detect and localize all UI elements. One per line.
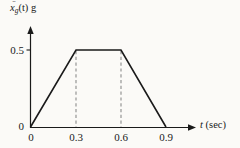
x-axis-variable: t xyxy=(200,119,203,130)
y-axis-title-rest: (t) g xyxy=(18,2,36,13)
y-axis-symbol: ¨xg xyxy=(10,3,18,15)
acceleration-pulse-figure: ¨xg(t) g t (sec) 0.5 0 0 0.3 0.6 0.9 xyxy=(0,0,240,148)
x-axis-unit: (sec) xyxy=(206,119,226,130)
x-axis-arrow-icon xyxy=(188,124,196,130)
x-tick-label-0point3: 0.3 xyxy=(69,132,83,143)
x-tick-label-0point6: 0.6 xyxy=(114,132,128,143)
x-tick-label-0point9: 0.9 xyxy=(159,132,173,143)
y-tick-label-0: 0 xyxy=(0,121,24,132)
pulse-data-line xyxy=(31,50,167,127)
y-tick-label-0point5: 0.5 xyxy=(0,45,24,56)
x-axis-title: t (sec) xyxy=(200,120,226,131)
y-axis-arrow-icon xyxy=(27,26,33,34)
double-dot-accent-icon: ¨ xyxy=(10,0,18,8)
y-axis-title: ¨xg(t) g xyxy=(10,3,36,15)
x-tick-label-0: 0 xyxy=(28,132,34,143)
